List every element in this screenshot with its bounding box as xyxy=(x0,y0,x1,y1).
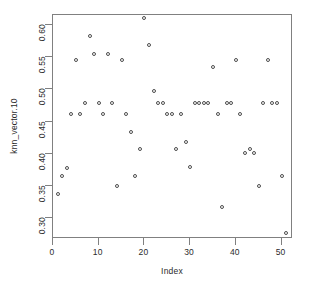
data-point xyxy=(225,101,229,105)
data-point xyxy=(165,112,169,116)
data-point xyxy=(152,89,156,93)
x-tick-mark xyxy=(143,238,144,245)
data-point xyxy=(92,52,96,56)
x-tick-label: 40 xyxy=(230,247,240,257)
data-point xyxy=(206,101,210,105)
data-point xyxy=(65,166,69,170)
data-point xyxy=(161,101,165,105)
x-tick-mark xyxy=(52,238,53,245)
x-tick-mark xyxy=(235,238,236,245)
y-tick-label: 0.35 xyxy=(37,185,47,202)
data-point xyxy=(147,43,151,47)
data-point xyxy=(88,34,92,38)
data-point xyxy=(275,101,279,105)
x-tick-label: 10 xyxy=(93,247,103,257)
data-point xyxy=(174,147,178,151)
y-tick-label: 0.50 xyxy=(37,88,47,105)
data-point xyxy=(243,151,247,155)
data-point xyxy=(106,52,110,56)
data-point xyxy=(184,140,188,144)
y-tick-label: 0.45 xyxy=(37,121,47,138)
x-tick-label: 20 xyxy=(138,247,148,257)
data-point xyxy=(257,184,261,188)
data-point xyxy=(69,112,73,116)
data-point xyxy=(229,101,233,105)
x-tick-mark xyxy=(281,238,282,245)
data-point xyxy=(97,101,101,105)
x-tick-label: 30 xyxy=(184,247,194,257)
data-point xyxy=(216,112,220,116)
data-point xyxy=(193,101,197,105)
data-point xyxy=(115,184,119,188)
data-point xyxy=(280,174,284,178)
data-point xyxy=(220,205,224,209)
data-point xyxy=(60,174,64,178)
x-tick-mark xyxy=(189,238,190,245)
x-tick-label: 0 xyxy=(50,247,55,257)
data-point xyxy=(248,147,252,151)
y-tick-label: 0.60 xyxy=(37,24,47,41)
x-tick-label: 50 xyxy=(276,247,286,257)
data-point xyxy=(252,151,256,155)
data-point xyxy=(202,101,206,105)
data-point xyxy=(170,112,174,116)
data-point xyxy=(138,147,142,151)
data-point xyxy=(197,101,201,105)
data-point xyxy=(234,58,238,62)
y-tick-label: 0.55 xyxy=(37,56,47,73)
data-point xyxy=(124,112,128,116)
data-point xyxy=(179,112,183,116)
data-points-layer xyxy=(53,15,291,237)
x-tick-mark xyxy=(98,238,99,245)
data-point xyxy=(110,101,114,105)
data-point xyxy=(156,101,160,105)
data-point xyxy=(284,231,288,235)
plot-panel xyxy=(52,14,292,238)
data-point xyxy=(101,112,105,116)
scatter-plot-figure: 0.300.350.400.450.500.550.60 knn_vector.… xyxy=(0,0,309,289)
data-point xyxy=(129,130,133,134)
data-point xyxy=(74,58,78,62)
x-axis-title: Index xyxy=(161,266,183,276)
data-point xyxy=(188,165,192,169)
data-point xyxy=(270,101,274,105)
data-point xyxy=(83,101,87,105)
data-point xyxy=(78,112,82,116)
data-point xyxy=(261,101,265,105)
data-point xyxy=(120,58,124,62)
y-tick-label: 0.40 xyxy=(37,153,47,170)
data-point xyxy=(56,192,60,196)
y-axis-title: knn_vector.10 xyxy=(9,98,19,154)
y-tick-label: 0.30 xyxy=(37,217,47,234)
data-point xyxy=(211,65,215,69)
data-point xyxy=(238,112,242,116)
data-point xyxy=(133,174,137,178)
data-point xyxy=(142,16,146,20)
data-point xyxy=(266,58,270,62)
